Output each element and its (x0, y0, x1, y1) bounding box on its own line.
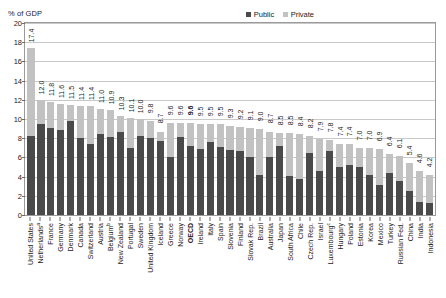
bar-stack[interactable] (396, 156, 403, 215)
bar-stack[interactable] (286, 133, 293, 215)
bar-group[interactable]: 7.4 (335, 23, 345, 215)
bar-stack[interactable] (326, 140, 333, 215)
bar-stack[interactable] (37, 100, 44, 215)
plot-area: 02468101214161820 17.412.011.811.611.511… (24, 22, 436, 216)
bar-group[interactable]: 17.4 (26, 23, 36, 215)
bar-group[interactable]: 9.5 (215, 23, 225, 215)
bar-group[interactable]: 9.8 (145, 23, 155, 215)
bar-stack[interactable] (406, 163, 413, 215)
bar-stack[interactable] (47, 102, 54, 215)
bar-group[interactable]: 6.9 (374, 23, 384, 215)
bar-stack[interactable] (356, 148, 363, 215)
bar-group[interactable]: 8.7 (155, 23, 165, 215)
bar-stack[interactable] (246, 128, 253, 215)
bar-group[interactable]: 7.0 (364, 23, 374, 215)
y-axis-title: % of GDP (8, 9, 42, 18)
bar-group[interactable]: 11.8 (46, 23, 56, 215)
bar-group[interactable]: 8.7 (265, 23, 275, 215)
bar-stack[interactable] (306, 136, 313, 215)
x-axis-label: Denmark (67, 223, 74, 251)
bar-group[interactable]: 4.2 (424, 23, 434, 215)
bar-group[interactable]: 6.4 (384, 23, 394, 215)
bar-group[interactable]: 9.1 (245, 23, 255, 215)
bar-group[interactable]: 12.0 (36, 23, 46, 215)
bar-group[interactable]: 7.9 (315, 23, 325, 215)
bar-stack[interactable] (187, 123, 194, 215)
bar-stack[interactable] (316, 139, 323, 215)
bar-stack[interactable] (366, 148, 373, 215)
bar-stack[interactable] (207, 124, 214, 215)
x-axis-tick-mark (230, 217, 231, 221)
bar-stack[interactable] (137, 119, 144, 215)
bar-stack[interactable] (256, 129, 263, 215)
bar-group[interactable]: 9.3 (225, 23, 235, 215)
bar-value-label: 6.4 (386, 136, 393, 146)
bar-stack[interactable] (226, 126, 233, 215)
bar-stack[interactable] (57, 104, 64, 215)
bar-segment-public (286, 176, 293, 215)
bar-stack[interactable] (236, 127, 243, 215)
bar-stack[interactable] (97, 109, 104, 215)
bar-group[interactable]: 6.1 (394, 23, 404, 215)
bar-value-label: 5.4 (406, 146, 413, 156)
bar-group[interactable]: 9.0 (255, 23, 265, 215)
bar-stack[interactable] (346, 144, 353, 215)
chart-legend: Public Private (246, 10, 314, 19)
bar-group[interactable]: 9.5 (205, 23, 215, 215)
bar-stack[interactable] (266, 132, 273, 216)
bar-group[interactable]: 11.4 (76, 23, 86, 215)
bar-stack[interactable] (296, 134, 303, 215)
bar-stack[interactable] (117, 116, 124, 215)
bar-group[interactable]: 7.4 (345, 23, 355, 215)
y-axis-tick-label: 18 (14, 38, 22, 47)
bar-stack[interactable] (147, 121, 154, 215)
bar-group[interactable]: 8.5 (275, 23, 285, 215)
bar-segment-public (167, 157, 174, 215)
bar-group[interactable]: 10.9 (106, 23, 116, 215)
bar-stack[interactable] (67, 105, 74, 215)
legend-item-private: Private (283, 10, 314, 19)
bar-group[interactable]: 9.5 (195, 23, 205, 215)
bar-stack[interactable] (127, 118, 134, 215)
bar-value-label: 11.6 (57, 85, 64, 98)
bar-stack[interactable] (217, 124, 224, 215)
bar-group[interactable]: 9.6 (185, 23, 195, 215)
bar-group[interactable]: 8.5 (285, 23, 295, 215)
bar-stack[interactable] (336, 144, 343, 215)
bar-group[interactable]: 10.1 (126, 23, 136, 215)
bar-group[interactable]: 9.6 (165, 23, 175, 215)
bar-stack[interactable] (376, 149, 383, 215)
bar-group[interactable]: 10.3 (116, 23, 126, 215)
bar-value-label: 9.6 (177, 105, 184, 115)
bar-segment-private (137, 119, 144, 136)
bar-stack[interactable] (157, 132, 164, 216)
bar-group[interactable]: 5.4 (404, 23, 414, 215)
bar-group[interactable]: 11.6 (56, 23, 66, 215)
bar-stack[interactable] (276, 133, 283, 215)
bar-stack[interactable] (177, 123, 184, 215)
bar-group[interactable]: 11.5 (66, 23, 76, 215)
bar-stack[interactable] (386, 154, 393, 215)
bar-group[interactable]: 7.0 (354, 23, 364, 215)
bar-group[interactable]: 8.4 (295, 23, 305, 215)
bar-group[interactable]: 11.4 (86, 23, 96, 215)
bar-group[interactable]: 11.0 (96, 23, 106, 215)
bar-stack[interactable] (416, 171, 423, 215)
bar-stack[interactable] (77, 106, 84, 215)
bar-group[interactable]: 4.6 (414, 23, 424, 215)
x-axis-label: Luxembourgc (326, 223, 334, 264)
bar-group[interactable]: 10.0 (135, 23, 145, 215)
bar-stack[interactable] (426, 175, 433, 215)
bar-group[interactable]: 9.2 (235, 23, 245, 215)
x-axis-label: South Africa (287, 223, 294, 261)
bar-stack[interactable] (167, 123, 174, 215)
bar-stack[interactable] (197, 124, 204, 215)
bar-group[interactable]: 7.8 (325, 23, 335, 215)
bar-stack[interactable] (27, 48, 34, 215)
bar-value-label: 9.8 (147, 104, 154, 114)
bar-group[interactable]: 9.6 (175, 23, 185, 215)
bar-stack[interactable] (87, 106, 94, 215)
bar-stack[interactable] (107, 110, 114, 215)
bar-group[interactable]: 8.2 (305, 23, 315, 215)
x-axis-label: United Kingdom (147, 223, 154, 273)
